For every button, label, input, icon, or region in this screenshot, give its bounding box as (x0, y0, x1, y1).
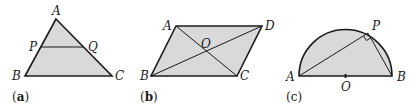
geometry-figures: A P Q B C (a) A D O B C (b) P A B O (c) (0, 0, 416, 106)
label-a: A (162, 19, 172, 33)
label-b: B (11, 69, 21, 83)
caption-b: (b) (140, 90, 158, 104)
label-c: C (115, 69, 124, 83)
label-o: O (341, 80, 351, 94)
label-c: C (240, 69, 249, 83)
caption-a: (a) (12, 90, 29, 104)
label-b: B (139, 69, 149, 83)
label-q: Q (88, 40, 98, 54)
label-p: P (371, 19, 381, 33)
semicircle (299, 30, 392, 76)
label-d: D (264, 19, 275, 33)
figure-c: P A B O (c) (285, 19, 406, 104)
label-p: P (28, 40, 38, 54)
label-a: A (285, 70, 295, 84)
figure-b: A D O B C (b) (139, 19, 275, 104)
label-o: O (201, 37, 211, 51)
caption-c: (c) (286, 90, 302, 104)
caption-a-letter: a (17, 90, 25, 104)
caption-c-letter: c (291, 90, 298, 104)
label-b: B (396, 70, 406, 84)
label-a: A (51, 4, 61, 18)
caption-b-letter: b (145, 90, 153, 104)
figure-a: A P Q B C (a) (11, 4, 124, 104)
